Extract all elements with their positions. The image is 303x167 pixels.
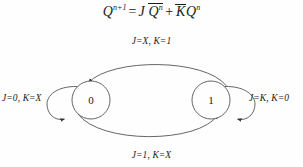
equation-lhs-superscript: n+1 [113,3,126,12]
transition-label-self-loop-0: J=0, K=X [2,93,41,103]
transition-label-1-to-0: J=X, K=1 [0,36,303,46]
equation-equals-sign: = [126,4,138,19]
state-node-0[interactable]: 0 [72,81,110,119]
state-label-1: 1 [208,94,214,106]
transition-label-0-to-1: J=1, K=X [0,150,303,160]
state-equation: Qn+1=JQn+KQn [0,3,303,20]
equation-term1-complement-group: Qn [148,3,163,19]
equation-plus-sign: + [163,4,175,19]
equation-term2-coefficient: K [176,4,186,19]
state-node-1[interactable]: 1 [192,81,230,119]
equation-term2-superscript: n [196,3,200,12]
equation-term2-variable: Q [186,4,196,19]
jk-flipflop-state-diagram-figure: Qn+1=JQn+KQn 0 1 J=X, K [0,0,303,167]
equation-term2-complement-group: K [175,4,186,20]
equation-term1-coefficient: J [139,4,145,19]
equation-lhs-variable: Q [103,4,113,19]
equation-term1-variable: Q [148,4,158,19]
transition-label-self-loop-1: J=K, K=0 [249,93,289,103]
state-label-0: 0 [88,94,94,106]
